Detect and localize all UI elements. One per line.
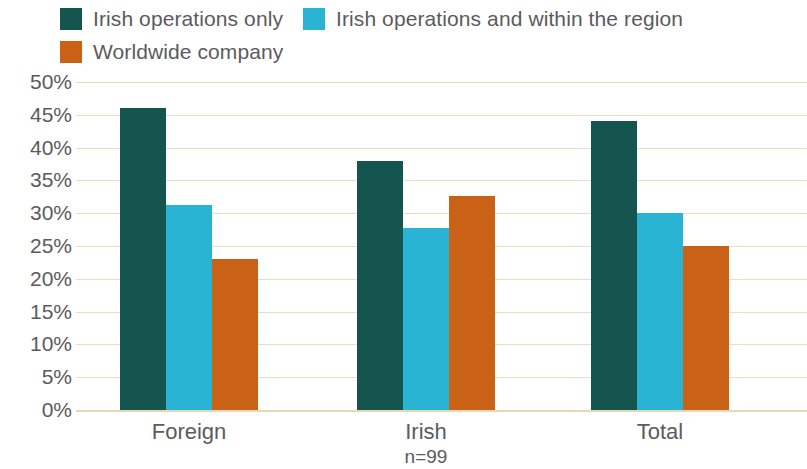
category-sample-size: n=99 xyxy=(326,446,526,468)
bar-chart: 50%45%40%35%30%25%20%15%10%5%0% ForeignI… xyxy=(0,0,807,469)
y-axis-tick-label: 15% xyxy=(10,301,72,322)
y-axis-tick-label: 20% xyxy=(10,268,72,289)
bar xyxy=(212,259,258,410)
y-axis-tick-label: 50% xyxy=(10,71,72,92)
y-axis-tick-label: 45% xyxy=(10,104,72,125)
x-axis-category-label: Total xyxy=(560,420,760,444)
gridline xyxy=(76,410,807,412)
bar xyxy=(637,213,683,410)
bar xyxy=(683,246,729,410)
category-name: Foreign xyxy=(152,419,227,444)
category-name: Irish xyxy=(405,419,447,444)
bar xyxy=(357,161,403,410)
x-axis-category-label: Irishn=99 xyxy=(326,420,526,468)
y-axis-tick-label: 35% xyxy=(10,169,72,190)
y-axis-tick-label: 5% xyxy=(10,366,72,387)
y-axis-tick-label: 40% xyxy=(10,137,72,158)
y-axis-tick-label: 25% xyxy=(10,235,72,256)
y-axis-tick-label: 10% xyxy=(10,333,72,354)
x-axis-category-label: Foreign xyxy=(89,420,289,444)
bar xyxy=(449,196,495,411)
bar xyxy=(120,108,166,410)
bar xyxy=(403,228,449,410)
bar xyxy=(591,121,637,410)
y-axis-tick-label: 30% xyxy=(10,202,72,223)
category-name: Total xyxy=(637,419,683,444)
y-axis-tick-label: 0% xyxy=(10,399,72,420)
bar xyxy=(166,205,212,410)
bars-area xyxy=(76,82,807,410)
